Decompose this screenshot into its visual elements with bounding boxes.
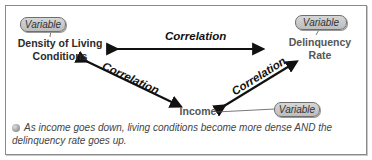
edge-label-top: Correlation: [165, 30, 226, 42]
bullet-icon: [12, 124, 20, 132]
node-income: Income: [178, 105, 218, 118]
variable-tag-density: Variable: [20, 17, 66, 32]
node-density-line2: Conditions: [10, 50, 110, 63]
node-density: Density of Living Conditions: [10, 37, 110, 63]
caption-note: As income goes down, living conditions b…: [12, 121, 357, 147]
node-delinquency: Delinquency Rate: [285, 36, 355, 62]
variable-tag-income: Variable: [274, 102, 320, 117]
node-delinquency-line1: Delinquency: [285, 36, 355, 49]
node-density-line1: Density of Living: [10, 37, 110, 50]
caption-text: As income goes down, living conditions b…: [12, 122, 332, 146]
variable-tag-delinquency: Variable: [295, 15, 347, 30]
node-delinquency-line2: Rate: [285, 49, 355, 62]
